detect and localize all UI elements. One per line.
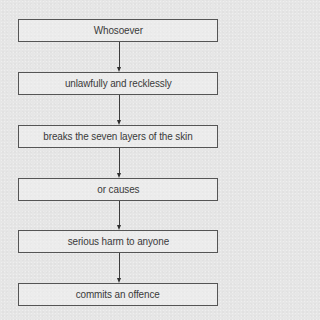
connector-line bbox=[119, 95, 120, 121]
step-box-unlawfully-and-recklessly: unlawfully and recklessly bbox=[18, 72, 218, 95]
step-label: unlawfully and recklessly bbox=[65, 78, 172, 89]
connector-line bbox=[119, 201, 120, 226]
step-label: commits an offence bbox=[76, 289, 160, 300]
step-label: or causes bbox=[97, 184, 139, 195]
step-box-serious-harm: serious harm to anyone bbox=[18, 230, 218, 253]
connector-line bbox=[119, 42, 120, 68]
step-label: breaks the seven layers of the skin bbox=[43, 131, 192, 142]
step-label: Whosoever bbox=[93, 25, 142, 36]
connector-line bbox=[119, 148, 120, 174]
connector-line bbox=[119, 253, 120, 279]
flowchart: Whosoever unlawfully and recklessly brea… bbox=[0, 0, 230, 320]
step-box-whosoever: Whosoever bbox=[18, 19, 218, 42]
step-box-commits-offence: commits an offence bbox=[18, 283, 218, 306]
step-box-breaks-skin: breaks the seven layers of the skin bbox=[18, 125, 218, 148]
step-label: serious harm to anyone bbox=[67, 236, 168, 247]
step-box-or-causes: or causes bbox=[18, 178, 218, 201]
